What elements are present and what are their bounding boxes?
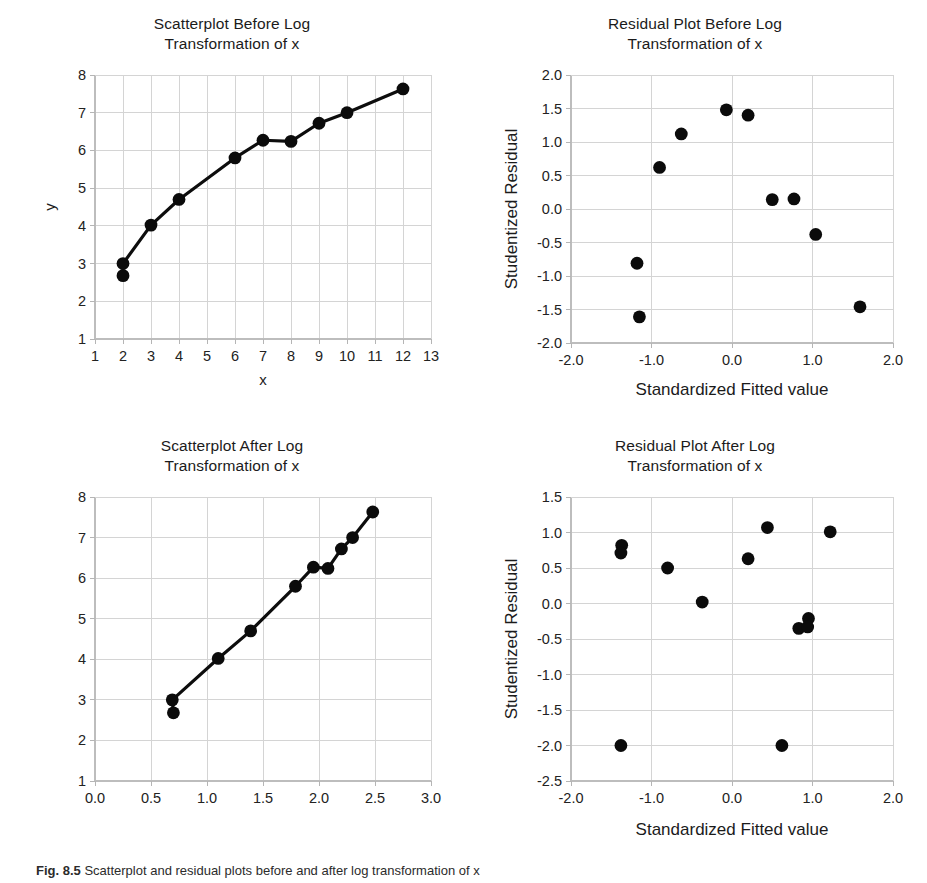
plot-area-scatter-before: 1234567812345678910111213xy: [0, 61, 464, 391]
svg-text:1.5: 1.5: [542, 489, 562, 505]
svg-text:5: 5: [78, 611, 86, 627]
svg-text:5: 5: [78, 180, 86, 196]
svg-text:1.0: 1.0: [542, 524, 562, 540]
svg-text:-1.0: -1.0: [639, 790, 664, 806]
svg-text:0.5: 0.5: [542, 560, 562, 576]
svg-text:0.5: 0.5: [542, 167, 562, 183]
svg-text:0.0: 0.0: [722, 790, 742, 806]
svg-text:1.0: 1.0: [802, 790, 822, 806]
svg-text:0.5: 0.5: [141, 790, 161, 806]
plot-area-residual-before: -2.0-1.5-1.0-0.50.00.51.01.52.0-2.0-1.00…: [463, 61, 927, 411]
svg-text:12: 12: [395, 348, 411, 364]
svg-text:-0.5: -0.5: [537, 631, 562, 647]
svg-text:7: 7: [259, 348, 267, 364]
svg-text:6: 6: [231, 348, 239, 364]
svg-text:10: 10: [339, 348, 355, 364]
svg-text:3.0: 3.0: [421, 790, 441, 806]
svg-text:1: 1: [78, 331, 86, 347]
svg-text:-2.0: -2.0: [537, 335, 562, 351]
chart-svg-scatter-before: 1234567812345678910111213xy: [0, 61, 464, 391]
panel-residual-after: Residual Plot After Log Transformation o…: [463, 430, 927, 840]
svg-text:0.0: 0.0: [542, 595, 562, 611]
y-axis-title: Studentized Residual: [502, 559, 521, 720]
panel-title-scatter-before: Scatterplot Before Log Transformation of…: [0, 14, 464, 55]
svg-text:8: 8: [78, 489, 86, 505]
panel-residual-before: Residual Plot Before Log Transformation …: [463, 8, 927, 408]
chart-svg-scatter-after: 123456780.00.51.01.52.02.53.0: [0, 483, 464, 833]
svg-text:3: 3: [147, 348, 155, 364]
chart-svg-residual-after: -2.5-2.0-1.5-1.0-0.50.00.51.01.5-2.0-1.0…: [463, 483, 927, 853]
svg-text:11: 11: [367, 348, 382, 364]
figure-caption-text: Scatterplot and residual plots before an…: [84, 863, 479, 878]
plot-area-residual-after: -2.5-2.0-1.5-1.0-0.50.00.51.01.5-2.0-1.0…: [463, 483, 927, 853]
y-axis-title: Studentized Residual: [502, 129, 521, 290]
svg-text:9: 9: [315, 348, 323, 364]
svg-text:1.5: 1.5: [253, 790, 273, 806]
svg-text:4: 4: [78, 218, 86, 234]
svg-text:8: 8: [78, 67, 86, 83]
svg-text:2.0: 2.0: [542, 67, 562, 83]
panel-title-residual-before: Residual Plot Before Log Transformation …: [463, 14, 927, 55]
svg-text:3: 3: [78, 692, 86, 708]
svg-text:-2.0: -2.0: [537, 737, 562, 753]
svg-text:-0.5: -0.5: [537, 234, 562, 250]
figure-container: Scatterplot Before Log Transformation of…: [0, 0, 927, 883]
svg-text:7: 7: [78, 105, 86, 121]
svg-text:1: 1: [78, 773, 86, 789]
svg-text:2: 2: [78, 293, 86, 309]
svg-text:3: 3: [78, 255, 86, 271]
svg-text:7: 7: [78, 529, 86, 545]
svg-text:0.0: 0.0: [722, 352, 742, 368]
svg-text:8: 8: [287, 348, 295, 364]
svg-text:6: 6: [78, 570, 86, 586]
svg-text:-1.0: -1.0: [537, 268, 562, 284]
svg-text:-2.5: -2.5: [537, 773, 562, 789]
panel-title-scatter-after: Scatterplot After Log Transformation of …: [0, 436, 464, 477]
svg-text:-1.5: -1.5: [537, 702, 562, 718]
svg-text:1: 1: [91, 348, 99, 364]
panel-scatter-after: Scatterplot After Log Transformation of …: [0, 430, 464, 840]
svg-text:2.0: 2.0: [883, 352, 903, 368]
svg-text:-2.0: -2.0: [559, 790, 584, 806]
svg-text:-1.0: -1.0: [639, 352, 664, 368]
svg-text:2.0: 2.0: [883, 790, 903, 806]
svg-text:1.0: 1.0: [802, 352, 822, 368]
svg-text:5: 5: [203, 348, 211, 364]
svg-text:6: 6: [78, 142, 86, 158]
svg-text:-1.5: -1.5: [537, 301, 562, 317]
svg-text:-2.0: -2.0: [559, 352, 584, 368]
x-axis-title: Standardized Fitted value: [636, 820, 829, 839]
svg-text:2: 2: [119, 348, 127, 364]
x-axis-title: x: [259, 371, 267, 388]
svg-text:2.5: 2.5: [365, 790, 385, 806]
panel-title-residual-after: Residual Plot After Log Transformation o…: [463, 436, 927, 477]
plot-area-scatter-after: 123456780.00.51.01.52.02.53.0: [0, 483, 464, 833]
panel-scatter-before: Scatterplot Before Log Transformation of…: [0, 8, 464, 408]
svg-text:2.0: 2.0: [309, 790, 329, 806]
figure-caption-label: Fig. 8.5: [36, 863, 81, 878]
svg-text:-1.0: -1.0: [537, 666, 562, 682]
chart-svg-residual-before: -2.0-1.5-1.0-0.50.00.51.01.52.0-2.0-1.00…: [463, 61, 927, 411]
svg-text:1.0: 1.0: [542, 134, 562, 150]
svg-text:0.0: 0.0: [542, 201, 562, 217]
svg-text:2: 2: [78, 732, 86, 748]
svg-text:4: 4: [78, 651, 86, 667]
svg-text:1.0: 1.0: [197, 790, 217, 806]
svg-text:1.5: 1.5: [542, 100, 562, 116]
x-axis-title: Standardized Fitted value: [636, 380, 829, 399]
figure-caption: Fig. 8.5 Scatterplot and residual plots …: [36, 862, 896, 883]
svg-text:4: 4: [175, 348, 183, 364]
svg-text:0.0: 0.0: [85, 790, 105, 806]
svg-text:13: 13: [423, 348, 439, 364]
y-axis-title: y: [41, 203, 58, 211]
